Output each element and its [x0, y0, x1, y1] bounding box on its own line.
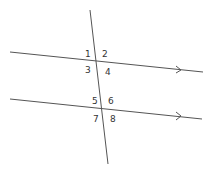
angle-label-7: 7 — [93, 114, 99, 124]
angle-label-5: 5 — [92, 96, 98, 106]
transversal-line — [90, 10, 108, 164]
parallel-line-bottom — [10, 99, 202, 119]
angle-label-4: 4 — [105, 67, 111, 77]
angle-label-2: 2 — [102, 49, 108, 59]
angle-label-6: 6 — [108, 96, 114, 106]
angle-label-8: 8 — [110, 114, 116, 124]
angle-label-3: 3 — [85, 65, 91, 75]
angle-label-1: 1 — [85, 49, 91, 59]
parallel-lines-diagram: 1 2 3 4 5 6 7 8 — [0, 0, 216, 172]
